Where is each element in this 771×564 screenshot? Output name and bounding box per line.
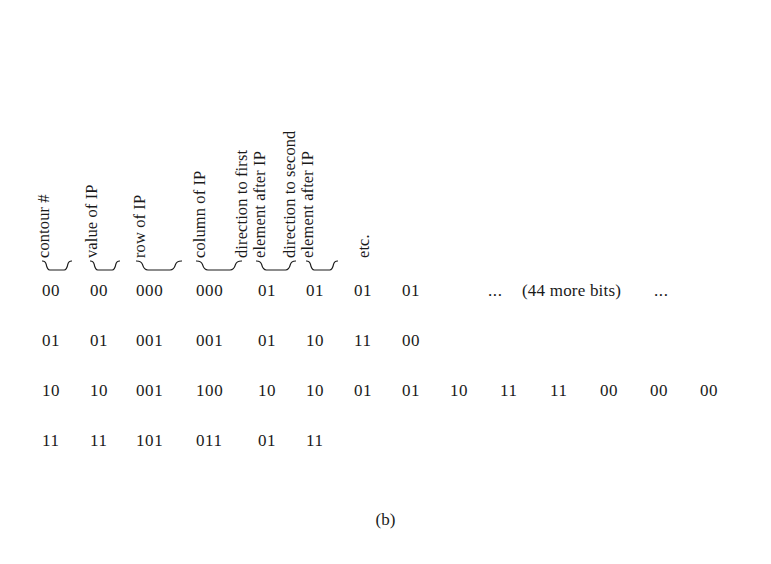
bit-cell: 00 — [42, 278, 60, 304]
bit-rows: 000000000001010101...(44 more bits)...01… — [0, 278, 771, 478]
figure-b-bitstream-encoding: contour #value of IProw of IPcolumn of I… — [0, 0, 771, 564]
column-header-direction-to-first-element: direction to firstelement after IP — [233, 150, 268, 258]
bit-cell: 01 — [42, 328, 60, 354]
bit-cell: 101 — [136, 428, 163, 454]
bit-cell: 10 — [90, 378, 108, 404]
column-header-contour-number: contour # — [35, 194, 52, 258]
bit-cell: 001 — [136, 378, 163, 404]
bit-cell: 000 — [136, 278, 163, 304]
bit-cell: 000 — [196, 278, 223, 304]
bit-cell: 11 — [306, 428, 324, 454]
brace-direction-first — [256, 258, 296, 272]
bit-cell: 11 — [550, 378, 568, 404]
header-line-1: row of IP — [130, 195, 149, 258]
brace-column-of-ip — [196, 258, 242, 272]
header-line-1: column of IP — [190, 171, 209, 258]
bit-cell: 10 — [306, 328, 324, 354]
header-line-1: etc. — [354, 234, 373, 258]
column-header-row-of-ip: row of IP — [131, 195, 148, 258]
row-contour-2: 101000110010100101101111000000 — [0, 378, 771, 428]
header-line-1: direction to first — [232, 150, 251, 258]
bit-cell: 00 — [402, 328, 420, 354]
bit-cell: 001 — [196, 328, 223, 354]
header-line-1: value of IP — [82, 185, 101, 259]
bit-cell: 11 — [90, 428, 108, 454]
bit-cell: ... — [654, 278, 669, 304]
figure-caption: (b) — [0, 510, 771, 530]
bit-cell: 10 — [450, 378, 468, 404]
header-line-2: element after IP — [251, 150, 269, 258]
column-header-value-of-ip: value of IP — [83, 185, 100, 259]
header-line-2: element after IP — [299, 131, 317, 258]
bit-cell: 11 — [500, 378, 518, 404]
column-header-direction-to-second-element: direction to secondelement after IP — [281, 131, 316, 258]
bit-cell: 01 — [258, 428, 276, 454]
column-braces — [0, 258, 771, 278]
column-header-etcetera: etc. — [355, 234, 372, 258]
bit-cell: 01 — [90, 328, 108, 354]
bit-cell: 01 — [306, 278, 324, 304]
bit-cell: 00 — [700, 378, 718, 404]
brace-direction-second — [306, 258, 338, 272]
bit-cell: 11 — [354, 328, 372, 354]
row-contour-1: 010100100101101100 — [0, 328, 771, 378]
brace-value-of-ip — [90, 258, 120, 272]
bit-cell: 00 — [90, 278, 108, 304]
row-contour-3: 11111010110111 — [0, 428, 771, 478]
bit-cell: 10 — [306, 378, 324, 404]
brace-contour-number — [42, 258, 72, 272]
bit-cell: 011 — [196, 428, 223, 454]
bit-cell: 11 — [42, 428, 60, 454]
bit-cell: 01 — [258, 328, 276, 354]
bit-cell: 001 — [136, 328, 163, 354]
bit-cell: 00 — [650, 378, 668, 404]
row-contour-0: 000000000001010101...(44 more bits)... — [0, 278, 771, 328]
bit-cell: 01 — [354, 378, 372, 404]
bit-cell: 10 — [258, 378, 276, 404]
bit-cell: (44 more bits) — [522, 278, 621, 304]
bit-cell: 01 — [354, 278, 372, 304]
bit-cell: 10 — [42, 378, 60, 404]
header-line-1: contour # — [34, 194, 53, 258]
column-header-column-of-ip: column of IP — [191, 171, 208, 258]
bit-cell: 01 — [402, 378, 420, 404]
bit-cell: 100 — [196, 378, 223, 404]
header-line-1: direction to second — [280, 131, 299, 258]
bit-cell: 00 — [600, 378, 618, 404]
brace-row-of-ip — [136, 258, 182, 272]
bit-cell: 01 — [258, 278, 276, 304]
column-headers: contour #value of IProw of IPcolumn of I… — [0, 0, 771, 258]
bit-cell: 01 — [402, 278, 420, 304]
bit-cell: ... — [488, 278, 503, 304]
